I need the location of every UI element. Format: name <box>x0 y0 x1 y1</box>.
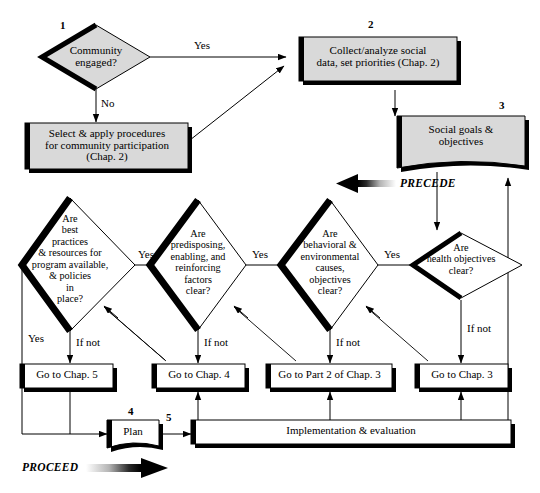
edge-diag-2 <box>234 307 296 361</box>
node-predisposing-label: Are predisposing, enabling, and reinforc… <box>149 228 247 297</box>
node-social-goals-label: Social goals & objectives <box>399 124 523 147</box>
edge-label-yes-1: Yes <box>138 249 154 261</box>
proceed-label: PROCEED <box>22 461 78 473</box>
proceed-arrow-icon <box>86 458 168 478</box>
edge-label-yes-2: Yes <box>252 249 268 261</box>
edge-label-no-top: No <box>101 98 114 110</box>
node-go-chap5-label: Go to Chap. 5 <box>22 369 112 381</box>
node-go-chap3-label: Go to Chap. 3 <box>417 369 507 381</box>
node-go-part2-chap3-label: Go to Part 2 of Chap. 3 <box>268 369 391 381</box>
step-number-1: 1 <box>60 20 66 32</box>
edge-diag-3-head <box>366 306 380 318</box>
step-number-4: 4 <box>128 406 134 418</box>
node-collect-analyze-label: Collect/analyze social data, set priorit… <box>301 45 455 68</box>
step-number-3: 3 <box>499 100 505 112</box>
edge-label-ifnot-4: If not <box>467 323 491 335</box>
step-number-5: 5 <box>166 412 172 424</box>
edge-label-yes-left: Yes <box>28 333 44 345</box>
edge-diag-1 <box>104 307 166 361</box>
edge-label-ifnot-1: If not <box>76 337 100 349</box>
edge-label-ifnot-2: If not <box>204 337 228 349</box>
edge-label-ifnot-3: If not <box>336 337 360 349</box>
edge-diag-2-head <box>234 306 248 318</box>
node-go-chap4-label: Go to Chap. 4 <box>154 369 244 381</box>
step-number-2: 2 <box>368 19 374 31</box>
node-best-practices-label: Are best practices & resources for progr… <box>14 213 126 304</box>
edge-label-yes-3: Yes <box>384 249 400 261</box>
precede-label: PRECEDE <box>400 177 456 189</box>
edge-select-to-collect <box>190 66 284 140</box>
edge-diag-3 <box>366 307 428 361</box>
edge-label-yes-top: Yes <box>194 40 210 52</box>
precede-arrow-icon <box>336 174 396 193</box>
flowchart-canvas: 1 2 3 4 5 Community engaged? Select & ap… <box>0 0 540 493</box>
node-select-apply-label: Select & apply procedures for community … <box>27 128 187 163</box>
node-implementation-label: Implementation & evaluation <box>193 425 509 437</box>
edge-diag-1-head <box>104 306 118 318</box>
node-plan-label: Plan <box>109 426 157 438</box>
node-community-engaged-label: Community engaged? <box>46 45 146 68</box>
node-behavioral-label: Are behavioral & environmental causes, o… <box>281 228 379 297</box>
node-health-objectives-label: Are health objectives clear? <box>411 242 511 276</box>
